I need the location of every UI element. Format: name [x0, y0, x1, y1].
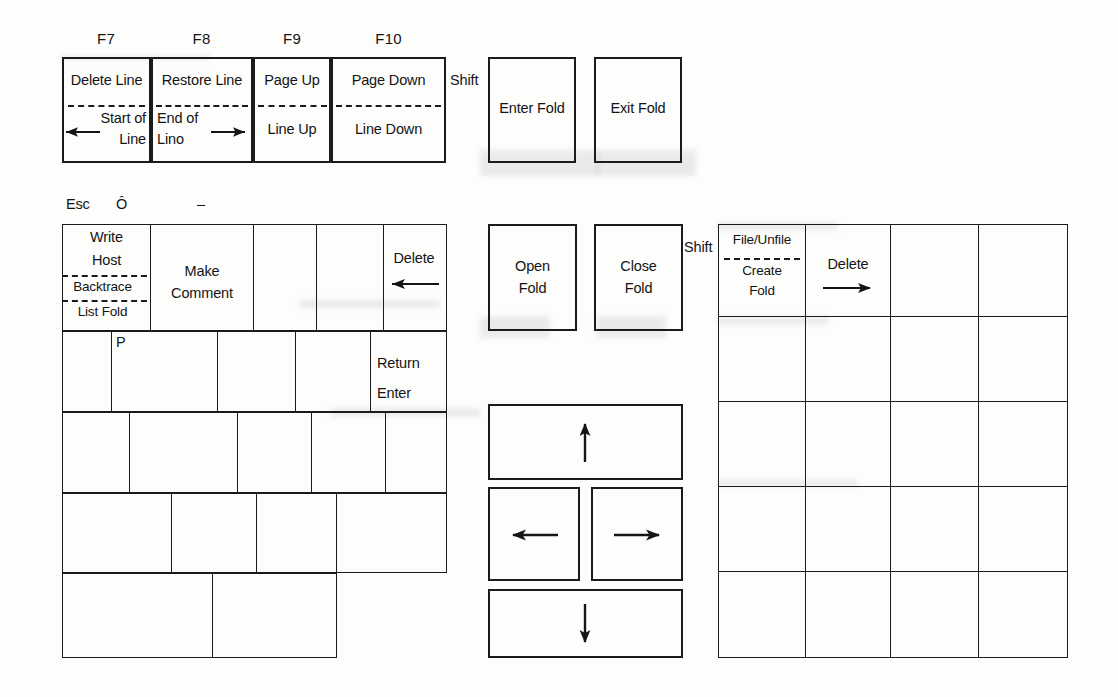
fkey-f8-shifted-label-line2: Lino — [157, 131, 252, 148]
fkey-f9-shifted-label: Line Up — [253, 121, 331, 138]
return-label: Return — [377, 355, 449, 372]
fkey-f7-shifted-label-line1: Start of — [62, 110, 146, 127]
legend-esc: Esc — [66, 196, 116, 213]
row5-blank-key-1[interactable] — [62, 573, 213, 658]
enter-label: Enter — [377, 385, 449, 402]
keypad-blank-r3c2[interactable] — [805, 401, 891, 487]
keypad-blank-r5c2[interactable] — [805, 571, 891, 658]
keypad-blank-r4c2[interactable] — [805, 486, 891, 572]
file-unfile-divider — [724, 258, 800, 260]
row4-blank-key-1[interactable] — [62, 493, 172, 573]
row3-blank-key-2[interactable] — [129, 412, 238, 493]
row5-right-divider — [336, 573, 337, 658]
delete-right-label: Delete — [805, 256, 891, 273]
keypad-blank-r3c1[interactable] — [718, 401, 806, 487]
file-unfile-label: File/Unfile — [716, 232, 808, 248]
row3-blank-key-4[interactable] — [311, 412, 386, 493]
fkey-f9-unshifted-label: Page Up — [253, 72, 331, 89]
make-label: Make — [150, 263, 254, 280]
row3-blank-key-1[interactable] — [62, 412, 130, 493]
list-fold-label: List Fold — [58, 304, 147, 320]
fkey-f7-shifted-label-line2: Line — [62, 131, 146, 148]
fkey-f10-unshifted-label: Page Down — [331, 72, 446, 89]
fkey-name-f7: F7 — [62, 30, 150, 47]
open-fold-label-line1: Open — [488, 258, 577, 275]
row2-blank-key-4[interactable] — [295, 331, 371, 412]
row4-blank-key-2[interactable] — [171, 493, 257, 573]
keypad-blank-r5c1[interactable] — [718, 571, 806, 658]
close-fold-label-line1: Close — [594, 258, 683, 275]
fkey-f8-divider — [156, 105, 248, 107]
keypad-blank-r3c3[interactable] — [890, 401, 979, 487]
fkey-f9-divider — [258, 105, 327, 107]
enter-fold-label: Enter Fold — [488, 100, 576, 117]
keypad-blank-r4c1[interactable] — [718, 486, 806, 572]
keypad-blank-r5c3[interactable] — [890, 571, 979, 658]
keypad-blank-r2c1[interactable] — [718, 316, 806, 402]
fkey-f7-unshifted-label: Delete Line — [62, 72, 151, 89]
backtrace-listfold-divider — [62, 300, 147, 302]
row4-blank-key-4[interactable] — [336, 493, 447, 573]
host-label: Host — [62, 252, 151, 269]
open-fold-key[interactable] — [488, 224, 577, 331]
create-fold-label-line2: Fold — [718, 283, 806, 299]
write-host-divider — [62, 275, 147, 277]
fkey-f7-divider — [68, 105, 145, 107]
close-fold-key[interactable] — [594, 224, 683, 331]
keypad-blank-r2c2[interactable] — [805, 316, 891, 402]
legend-circumflex: Ô — [116, 196, 146, 213]
arrow-left-key[interactable] — [488, 487, 580, 581]
keypad-blank-r1c3[interactable] — [890, 224, 979, 317]
fkey-f8-unshifted-label: Restore Line — [151, 72, 253, 89]
fkey-f10-divider — [336, 105, 441, 107]
create-fold-label-line1: Create — [718, 263, 806, 279]
keypad-blank-r4c4[interactable] — [978, 486, 1068, 572]
fkey-f8-shifted-label-line1: End of — [157, 110, 252, 127]
fkey-name-f10: F10 — [331, 30, 446, 47]
close-fold-label-line2: Fold — [594, 280, 683, 297]
arrow-right-key[interactable] — [591, 487, 683, 581]
row1-blank-key-4[interactable] — [316, 224, 384, 331]
open-fold-label-line2: Fold — [488, 280, 577, 297]
arrow-up-key[interactable] — [488, 404, 683, 480]
exit-fold-label: Exit Fold — [594, 100, 682, 117]
comment-label: Comment — [150, 285, 254, 302]
keypad-blank-r4c3[interactable] — [890, 486, 979, 572]
keypad-blank-r1c4[interactable] — [978, 224, 1068, 317]
fkey-f10-shifted-label: Line Down — [331, 121, 446, 138]
delete-left-key[interactable] — [383, 224, 447, 331]
row4-blank-key-3[interactable] — [256, 493, 337, 573]
keypad-blank-r2c4[interactable] — [978, 316, 1068, 402]
spacebar-key[interactable] — [212, 573, 337, 658]
arrow-down-key[interactable] — [488, 589, 683, 658]
row2-blank-key-1[interactable] — [62, 331, 112, 412]
row3-blank-key-5[interactable] — [385, 412, 447, 493]
keypad-blank-r2c3[interactable] — [890, 316, 979, 402]
delete-left-label: Delete — [381, 250, 447, 267]
keypad-blank-r3c4[interactable] — [978, 401, 1068, 487]
fkey-name-f8: F8 — [150, 30, 253, 47]
row2-blank-key-3[interactable] — [217, 331, 296, 412]
backtrace-label: Backtrace — [58, 279, 147, 295]
keyboard-template-sheet: F7 F8 F9 F10 Delete Line Start of Line R… — [0, 0, 1118, 697]
row1-blank-key-3[interactable] — [253, 224, 317, 331]
keypad-blank-r5c4[interactable] — [978, 571, 1068, 658]
fkey-name-f9: F9 — [253, 30, 331, 47]
p-key-label: P — [116, 334, 156, 351]
write-label: Write — [62, 229, 151, 246]
legend-dash: – — [197, 196, 227, 213]
row3-blank-key-3[interactable] — [237, 412, 312, 493]
